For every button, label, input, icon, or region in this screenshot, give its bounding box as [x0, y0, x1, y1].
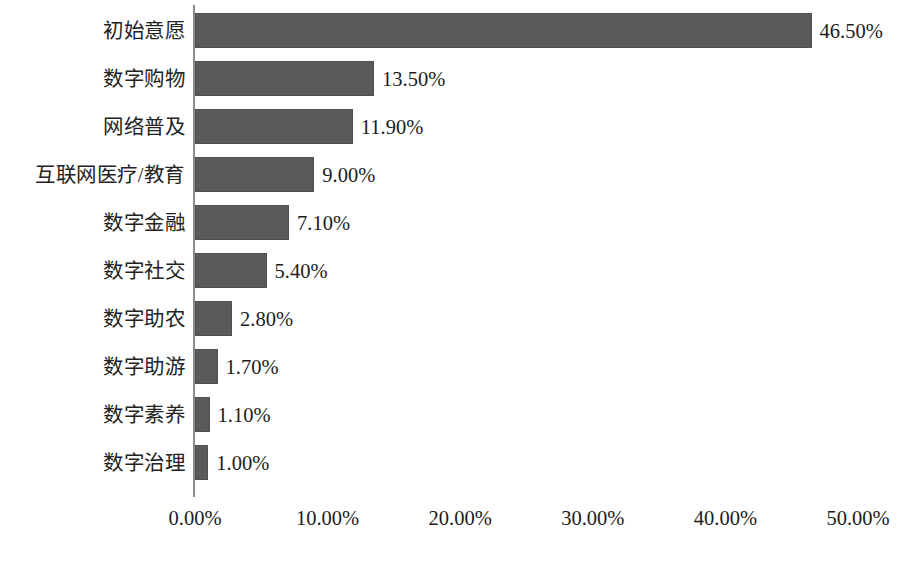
- plot-area: 初始意愿 46.50% 数字购物 13.50% 网络普及 11.90% 互联网医…: [0, 0, 906, 561]
- bar-value-label: 13.50%: [382, 55, 445, 103]
- bar: [195, 445, 208, 480]
- bar-value-label: 5.40%: [275, 247, 328, 295]
- bar: [195, 109, 353, 144]
- category-label: 数字购物: [103, 55, 194, 103]
- bar: [195, 61, 374, 96]
- bar-row: 数字社交 5.40%: [0, 247, 906, 295]
- bar-row: 数字助农 2.80%: [0, 295, 906, 343]
- bar-value-label: 46.50%: [820, 7, 883, 55]
- bar-row: 数字金融 7.10%: [0, 199, 906, 247]
- bar-value-label: 1.00%: [216, 439, 269, 487]
- category-label: 初始意愿: [103, 7, 194, 55]
- bar: [195, 205, 289, 240]
- category-label: 数字助游: [103, 343, 194, 391]
- bar-row: 数字治理 1.00%: [0, 439, 906, 487]
- bar-chart: 初始意愿 46.50% 数字购物 13.50% 网络普及 11.90% 互联网医…: [0, 0, 906, 561]
- x-axis-tick-label: 50.00%: [826, 507, 889, 530]
- bar-row: 数字助游 1.70%: [0, 343, 906, 391]
- category-label: 数字助农: [103, 295, 194, 343]
- bar: [195, 397, 210, 432]
- bar-row: 互联网医疗/教育 9.00%: [0, 151, 906, 199]
- bar-row: 数字购物 13.50%: [0, 55, 906, 103]
- bar-row: 数字素养 1.10%: [0, 391, 906, 439]
- bar-value-label: 11.90%: [361, 103, 423, 151]
- bar-value-label: 7.10%: [297, 199, 350, 247]
- bar-value-label: 9.00%: [322, 151, 375, 199]
- category-label: 数字素养: [103, 391, 194, 439]
- x-axis-tick-label: 40.00%: [694, 507, 757, 530]
- bar: [195, 13, 812, 48]
- x-axis-tick-label: 20.00%: [429, 507, 492, 530]
- x-axis-tick-label: 30.00%: [561, 507, 624, 530]
- bar-row: 初始意愿 46.50%: [0, 7, 906, 55]
- bar: [195, 157, 314, 192]
- category-label: 数字社交: [103, 247, 194, 295]
- bar-value-label: 1.70%: [226, 343, 279, 391]
- category-label: 互联网医疗/教育: [35, 151, 194, 199]
- bar-value-label: 1.10%: [218, 391, 271, 439]
- x-axis-tick-label: 10.00%: [296, 507, 359, 530]
- category-label: 数字金融: [103, 199, 194, 247]
- x-axis-tick-label: 0.00%: [169, 507, 222, 530]
- bar-row: 网络普及 11.90%: [0, 103, 906, 151]
- bar: [195, 253, 267, 288]
- category-label: 数字治理: [103, 439, 194, 487]
- bar: [195, 349, 218, 384]
- bar: [195, 301, 232, 336]
- category-label: 网络普及: [103, 103, 194, 151]
- bar-value-label: 2.80%: [240, 295, 293, 343]
